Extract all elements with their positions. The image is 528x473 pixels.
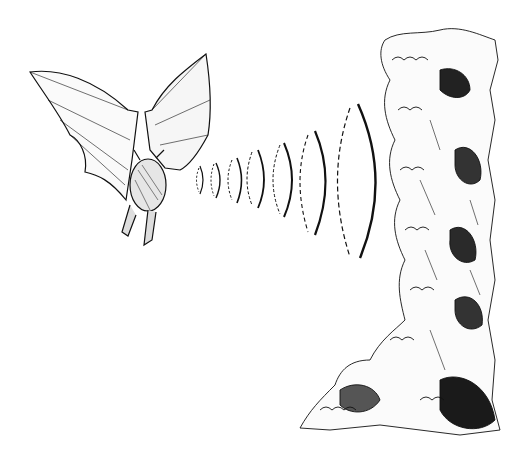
bat-illustration xyxy=(30,54,210,245)
illustration xyxy=(0,0,528,473)
sound-waves xyxy=(197,104,376,258)
scene-svg xyxy=(0,0,528,473)
foliage xyxy=(300,29,500,435)
